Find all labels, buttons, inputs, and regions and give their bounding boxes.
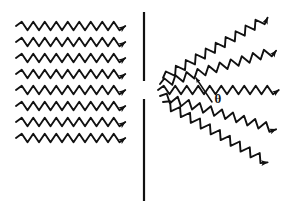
angle-annotation-group: θ (196, 78, 222, 106)
angle-leader-arrow (196, 78, 212, 102)
diffracted-ray-down-30 (163, 101, 268, 163)
diffracted-ray-up-30 (163, 18, 268, 78)
incident-wave-group (16, 22, 125, 142)
incident-wave-2 (16, 38, 125, 46)
incident-wave-8 (16, 134, 125, 142)
incident-wave-1 (16, 22, 125, 30)
incident-wave-3 (16, 54, 125, 62)
incident-wave-5 (16, 86, 125, 94)
theta-symbol-label: θ (215, 91, 222, 106)
incident-wave-6 (16, 102, 125, 110)
diffraction-canvas: θ (0, 0, 287, 214)
incident-wave-4 (16, 70, 125, 78)
diffraction-figure: θ (0, 0, 287, 214)
incident-wave-7 (16, 118, 125, 126)
